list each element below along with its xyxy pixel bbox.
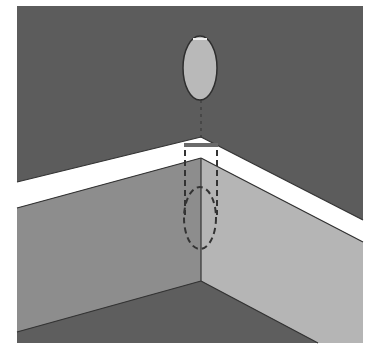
room-corner-diagram bbox=[0, 0, 373, 351]
hanging-oval bbox=[183, 36, 217, 100]
projection-bar bbox=[184, 143, 218, 147]
